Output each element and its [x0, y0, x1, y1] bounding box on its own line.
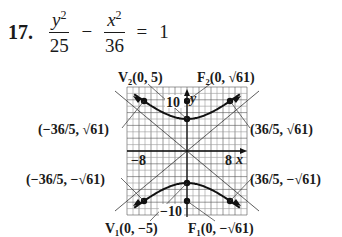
label-lower-right: (36/5, −√61) [250, 172, 321, 188]
label-f1: F₁(0, −√61) [188, 221, 254, 237]
y-tick-10: 10 [166, 95, 180, 110]
label-upper-left: (−36/5, √61) [38, 122, 109, 138]
x-tick-8: 8 [225, 153, 232, 168]
x-tick-neg8: −8 [131, 153, 146, 168]
y-axis-label: y [188, 91, 197, 106]
y-tick-neg10: −10 [160, 204, 182, 219]
label-upper-right: (36/5, √61) [250, 122, 313, 138]
label-lower-left: (−36/5, −√61) [26, 172, 105, 188]
label-v1: V₁(0, −5) [105, 221, 158, 237]
x-axis-label: x [235, 152, 243, 167]
label-f2: F₂(0, √61) [197, 70, 255, 86]
hyperbola-graph: 10 y −8 8 x −10 V₂(0, 5) F₂(0, √61) V₁(0… [0, 0, 342, 237]
label-v2: V₂(0, 5) [118, 70, 163, 86]
